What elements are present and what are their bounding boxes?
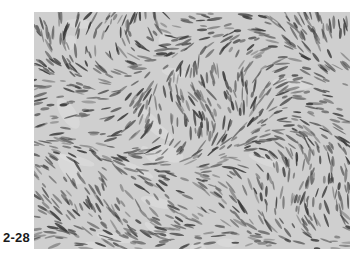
- micrograph-background: [34, 12, 350, 249]
- spindle-nucleus: [234, 80, 236, 92]
- histology-micrograph: [34, 12, 350, 249]
- spindle-nucleus: [176, 117, 178, 127]
- figure-number-label: 2-28: [3, 230, 30, 245]
- micrograph-texture: [34, 12, 350, 249]
